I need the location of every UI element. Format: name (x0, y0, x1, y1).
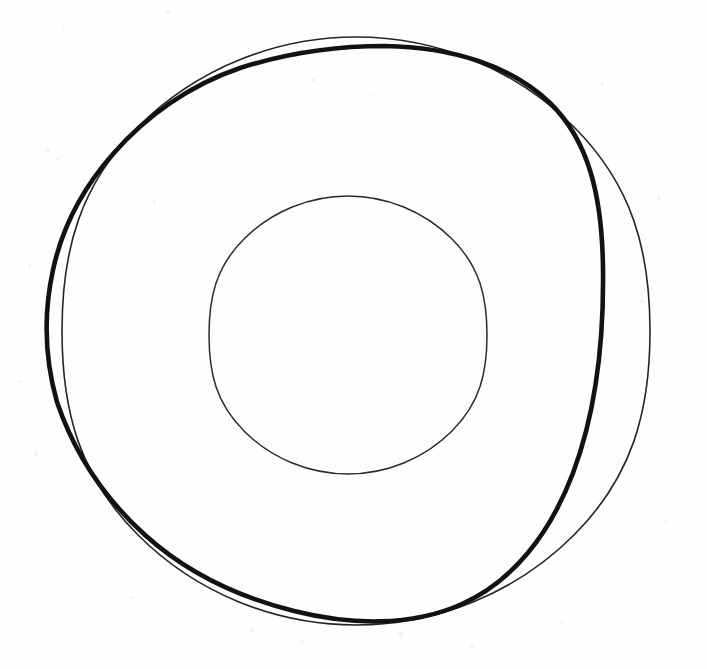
line-drawing-svg (0, 0, 707, 669)
drawing-canvas (0, 0, 707, 669)
